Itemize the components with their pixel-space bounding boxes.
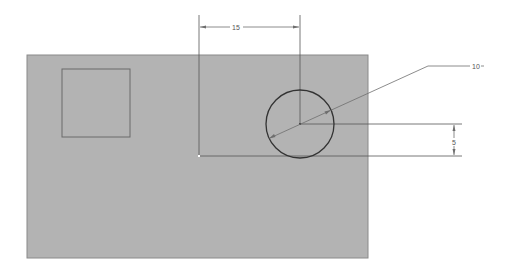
dimension-label-15: 15	[232, 24, 240, 31]
origin-point[interactable]	[198, 155, 200, 157]
dimension-label-10: 10	[472, 63, 480, 70]
dimension-label-5: 5	[452, 139, 456, 146]
plate-body[interactable]	[27, 55, 368, 258]
cad-sketch-canvas[interactable]: 15 5 10	[0, 0, 509, 277]
